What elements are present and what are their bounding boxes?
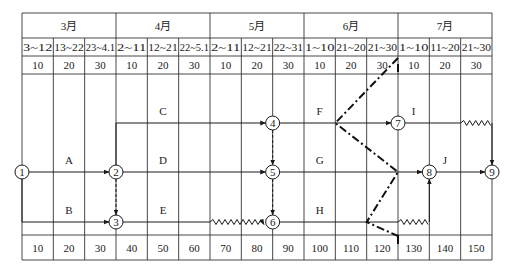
- date-range-label: 21~20: [336, 42, 365, 53]
- cumulative-day-label: 60: [189, 242, 201, 254]
- day-value-label: 10: [32, 59, 44, 71]
- cumulative-day-label: 120: [374, 242, 391, 254]
- activity-label-g: G: [316, 154, 324, 166]
- activity-label-h: H: [316, 204, 324, 216]
- cumulative-day-label: 10: [32, 242, 44, 254]
- date-range-label: 1~10: [399, 42, 428, 53]
- activity-label-e: E: [160, 204, 167, 216]
- date-range-label: 22~5.1: [180, 42, 209, 53]
- node-4: 4: [266, 116, 280, 130]
- activity-label-i: I: [412, 105, 416, 117]
- date-range-label: 11~20: [430, 42, 459, 53]
- node-2: 2: [109, 165, 123, 179]
- node-9: 9: [485, 165, 499, 179]
- node-3: 3: [109, 215, 123, 229]
- day-value-label: 20: [64, 59, 76, 71]
- cumulative-day-label: 50: [158, 242, 170, 254]
- day-value-label: 30: [471, 59, 483, 71]
- day-value-label: 30: [189, 59, 201, 71]
- cumulative-day-label: 80: [252, 242, 264, 254]
- cumulative-day-label: 20: [64, 242, 76, 254]
- cumulative-day-label: 30: [95, 242, 107, 254]
- date-range-label: 12~21: [242, 42, 271, 53]
- node-number: 1: [19, 166, 25, 178]
- calendar-header: 3月4月5月6月7月3~1213~2223~4.12~1112~2122~5.1…: [23, 20, 491, 71]
- node-5: 5: [266, 165, 280, 179]
- month-label: 6月: [343, 20, 360, 32]
- day-value-label: 30: [377, 59, 389, 71]
- node-number: 9: [489, 166, 495, 178]
- day-value-label: 20: [346, 59, 358, 71]
- node-6: 6: [266, 215, 280, 229]
- cumulative-day-label: 110: [343, 242, 360, 254]
- date-range-label: 13~22: [54, 42, 83, 53]
- day-value-label: 10: [314, 59, 326, 71]
- cumulative-day-label: 70: [220, 242, 232, 254]
- month-label: 4月: [155, 20, 172, 32]
- cumulative-day-label: 40: [126, 242, 138, 254]
- date-range-label: 22~31: [274, 42, 303, 53]
- day-value-label: 20: [252, 59, 264, 71]
- day-value-label: 30: [95, 59, 107, 71]
- date-range-label: 2~11: [211, 42, 240, 53]
- date-range-label: 21~30: [462, 42, 491, 53]
- month-label: 5月: [249, 20, 266, 32]
- cumulative-day-label: 90: [283, 242, 295, 254]
- day-value-label: 10: [126, 59, 138, 71]
- node-7: 7: [391, 116, 405, 130]
- activity-label-a: A: [65, 154, 73, 166]
- node-number: 6: [270, 216, 276, 228]
- day-value-label: 10: [220, 59, 232, 71]
- cumulative-day-label: 140: [437, 242, 454, 254]
- date-range-label: 23~4.1: [86, 42, 115, 53]
- node-number: 3: [113, 216, 119, 228]
- activity-label-j: J: [443, 154, 448, 166]
- time-scaled-network-diagram: 3月4月5月6月7月3~1213~2223~4.12~1112~2122~5.1…: [0, 0, 512, 276]
- activity-label-c: C: [159, 105, 166, 117]
- cumulative-day-label: 130: [405, 242, 422, 254]
- month-label: 3月: [61, 20, 78, 32]
- date-range-label: 1~10: [305, 42, 334, 53]
- node-number: 5: [270, 166, 276, 178]
- activity-labels: ABCDEFGHIJ: [65, 105, 448, 216]
- node-number: 8: [427, 166, 433, 178]
- node-8: 8: [422, 165, 436, 179]
- activity-label-b: B: [65, 204, 72, 216]
- node-number: 7: [395, 117, 401, 129]
- day-value-label: 30: [283, 59, 295, 71]
- month-label: 7月: [437, 20, 454, 32]
- node-1: 1: [15, 165, 29, 179]
- node-number: 2: [113, 166, 119, 178]
- cumulative-day-label: 100: [311, 242, 328, 254]
- node-number: 4: [270, 117, 276, 129]
- activity-arrows: [22, 74, 492, 225]
- day-value-label: 20: [440, 59, 452, 71]
- date-range-label: 3~12: [23, 42, 52, 53]
- date-range-label: 12~21: [148, 42, 177, 53]
- date-range-label: 2~11: [117, 42, 146, 53]
- activity-label-d: D: [159, 154, 167, 166]
- cumulative-days-footer: 102030405060708090100110120130140150: [32, 242, 485, 254]
- day-value-label: 20: [158, 59, 170, 71]
- date-range-label: 21~30: [368, 42, 397, 53]
- activity-label-f: F: [317, 105, 323, 117]
- cumulative-day-label: 150: [468, 242, 485, 254]
- day-value-label: 10: [408, 59, 420, 71]
